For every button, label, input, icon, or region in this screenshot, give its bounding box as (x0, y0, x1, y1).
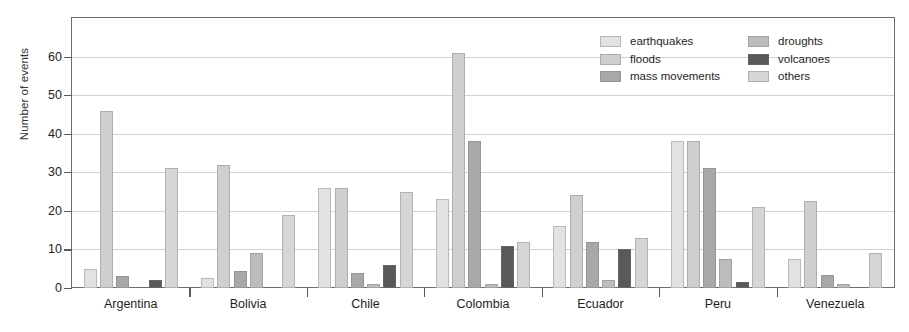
x-tick-mark (189, 288, 190, 297)
bar (602, 280, 615, 288)
x-tick-mark (659, 288, 660, 297)
bar (318, 188, 331, 288)
bar (468, 141, 481, 288)
bar (234, 271, 247, 288)
x-axis-label-ecuador: Ecuador (577, 297, 624, 311)
bar (586, 242, 599, 288)
bar (436, 199, 449, 288)
bar (250, 253, 263, 288)
legend-swatch-icon (748, 71, 769, 82)
legend-label: droughts (778, 36, 823, 48)
bar (335, 188, 348, 288)
x-axis-label-colombia: Colombia (457, 297, 510, 311)
x-axis-label-chile: Chile (351, 297, 380, 311)
bar-group (72, 18, 189, 288)
legend-swatch-icon (600, 54, 621, 65)
y-tick-mark (64, 95, 72, 96)
bar (165, 168, 178, 288)
bar (400, 192, 413, 288)
legend-label: mass movements (630, 71, 720, 83)
bar (869, 253, 882, 288)
x-tick-mark (424, 288, 425, 297)
bar (282, 215, 295, 288)
bar (719, 259, 732, 288)
legend-label: others (778, 71, 810, 83)
bar-group (424, 18, 541, 288)
y-tick-mark (64, 211, 72, 212)
bar (517, 242, 530, 288)
legend-item-mass-movements: mass movements (600, 71, 720, 83)
bar-group (189, 18, 306, 288)
legend-column: droughtsvolcanoesothers (748, 36, 830, 83)
x-axis-label-peru: Peru (705, 297, 731, 311)
y-tick-label: 0 (16, 281, 62, 295)
legend-label: earthquakes (630, 36, 693, 48)
legend-item-others: others (748, 71, 830, 83)
bar (788, 259, 801, 288)
legend-item-earthquakes: earthquakes (600, 36, 720, 48)
y-tick-label: 60 (16, 50, 62, 64)
bar (687, 141, 700, 288)
bar (452, 53, 465, 288)
y-tick-mark (64, 57, 72, 58)
bar (752, 207, 765, 288)
legend-column: earthquakesfloodsmass movements (600, 36, 720, 83)
bar (804, 201, 817, 288)
legend-swatch-icon (600, 71, 621, 82)
y-tick-label: 40 (16, 127, 62, 141)
legend-label: volcanoes (778, 54, 830, 66)
y-tick-mark (64, 249, 72, 250)
bar (201, 278, 214, 288)
y-tick-label: 20 (16, 204, 62, 218)
y-tick-mark (64, 172, 72, 173)
legend-item-floods: floods (600, 54, 720, 66)
bar (84, 269, 97, 288)
bar (553, 226, 566, 288)
legend-item-droughts: droughts (748, 36, 830, 48)
x-axis-label-argentina: Argentina (104, 297, 158, 311)
bar-group (307, 18, 424, 288)
bar (618, 249, 631, 288)
chart-legend: earthquakesfloodsmass movementsdroughtsv… (600, 36, 830, 83)
x-axis: ArgentinaBoliviaChileColombiaEcuadorPeru… (72, 288, 894, 332)
y-tick-label: 10 (16, 242, 62, 256)
y-tick-mark (64, 134, 72, 135)
bar (217, 165, 230, 288)
bar (703, 168, 716, 288)
legend-label: floods (630, 54, 661, 66)
y-tick-label: 30 (16, 165, 62, 179)
bar (635, 238, 648, 288)
bar (116, 276, 129, 288)
bar (383, 265, 396, 288)
legend-item-volcanoes: volcanoes (748, 54, 830, 66)
x-tick-mark (777, 288, 778, 297)
y-tick-mark (64, 288, 72, 289)
x-tick-mark (542, 288, 543, 297)
bar-chart: Number of events 0102030405060 Argentina… (0, 0, 909, 332)
bar (100, 111, 113, 288)
bar (570, 195, 583, 288)
legend-swatch-icon (748, 36, 769, 47)
x-axis-label-venezuela: Venezuela (806, 297, 864, 311)
y-tick-label: 50 (16, 88, 62, 102)
bar (351, 273, 364, 288)
bar (501, 246, 514, 288)
x-tick-mark (307, 288, 308, 297)
bar (821, 275, 834, 289)
legend-swatch-icon (600, 36, 621, 47)
bar (149, 280, 162, 288)
legend-swatch-icon (748, 54, 769, 65)
x-axis-label-bolivia: Bolivia (230, 297, 267, 311)
bar (671, 141, 684, 288)
